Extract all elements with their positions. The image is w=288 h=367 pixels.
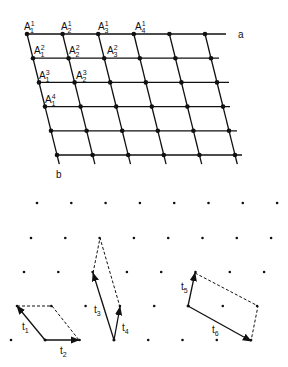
cell-dashed-edge xyxy=(17,306,79,340)
lattice-point xyxy=(139,202,142,205)
grid-point xyxy=(215,80,220,85)
axis-a-label: a xyxy=(238,29,244,40)
vector-label: t4 xyxy=(122,322,129,335)
lattice-point xyxy=(167,237,170,240)
cell-dashed-edge xyxy=(93,238,120,307)
lattice-point xyxy=(10,339,13,342)
grid-point xyxy=(31,56,36,61)
point-label: A32 xyxy=(76,69,87,83)
lattice-point xyxy=(30,237,33,240)
lattice-point xyxy=(222,305,225,308)
grid-point xyxy=(221,104,226,109)
lattice-point xyxy=(84,305,87,308)
lattice-point xyxy=(201,237,204,240)
unit-cell: t3t4 xyxy=(93,238,129,341)
lattice-point xyxy=(216,339,219,342)
unit-cells: t1t2t3t4t5t6 xyxy=(17,238,258,358)
vector-label: t2 xyxy=(60,345,67,358)
lattice-point xyxy=(263,271,266,274)
point-label: A21 xyxy=(34,44,45,58)
cell-dashed-edge xyxy=(195,273,258,341)
lattice-point xyxy=(153,305,156,308)
point-label: A11 xyxy=(24,20,35,34)
grid-point xyxy=(138,56,143,61)
grid-point xyxy=(102,56,107,61)
lattice-point xyxy=(181,339,184,342)
vector-origin xyxy=(44,339,47,342)
grid-point xyxy=(227,129,232,134)
lattice-point xyxy=(70,202,73,205)
lattice-point xyxy=(173,202,176,205)
grid-point xyxy=(132,32,137,37)
grid-point xyxy=(120,129,125,134)
grid-point xyxy=(66,56,71,61)
grid-point xyxy=(150,104,155,109)
point-label: A13 xyxy=(98,20,109,34)
vector-label: t5 xyxy=(181,281,188,294)
oblique-grid xyxy=(25,32,242,164)
grid-point xyxy=(156,129,161,134)
column-line xyxy=(205,34,237,164)
lattice-point xyxy=(276,202,279,205)
vector-label: t3 xyxy=(94,304,101,317)
vector-label: t6 xyxy=(212,324,219,337)
axis-b-label: b xyxy=(56,169,62,180)
grid-point xyxy=(84,129,89,134)
lattice-point xyxy=(147,339,150,342)
lattice-point xyxy=(242,202,245,205)
lattice-point xyxy=(104,202,107,205)
lattice-point xyxy=(229,271,232,274)
grid-point xyxy=(173,56,178,61)
grid-point xyxy=(191,129,196,134)
grid-point xyxy=(203,32,208,37)
grid-point xyxy=(108,80,113,85)
lattice-point xyxy=(64,237,67,240)
translation-vector xyxy=(188,306,251,341)
grid-point xyxy=(197,153,202,158)
lattice-point xyxy=(160,271,163,274)
grid-point xyxy=(185,104,190,109)
grid-point xyxy=(179,80,184,85)
grid-point xyxy=(90,153,95,158)
point-label: A41 xyxy=(45,93,56,107)
vector-origin xyxy=(113,339,116,342)
point-label: A31 xyxy=(39,69,50,83)
lattice-point xyxy=(133,237,136,240)
lattice-point xyxy=(23,271,26,274)
grid-point xyxy=(209,56,214,61)
lattice-point xyxy=(236,237,239,240)
grid-point xyxy=(162,153,167,158)
vector-label: t1 xyxy=(22,321,29,334)
unit-cell: t5t6 xyxy=(181,273,258,341)
point-label: A12 xyxy=(61,20,72,34)
point-label: A14 xyxy=(135,20,146,34)
grid-point xyxy=(144,80,149,85)
grid-point xyxy=(55,153,60,158)
lattice-point xyxy=(207,202,210,205)
lattice-point xyxy=(126,271,129,274)
column-line xyxy=(134,34,166,164)
grid-point xyxy=(96,32,101,37)
lattice-point xyxy=(57,271,60,274)
translation-vector xyxy=(114,307,120,340)
vector-origin xyxy=(187,305,190,308)
grid-point xyxy=(78,104,83,109)
translation-vector xyxy=(188,273,195,306)
point-lattice xyxy=(10,202,279,342)
lattice-point xyxy=(36,202,39,205)
grid-point xyxy=(60,32,65,37)
grid-point xyxy=(25,32,30,37)
point-label: A23 xyxy=(107,44,118,58)
grid-point xyxy=(49,129,54,134)
grid-point xyxy=(126,153,131,158)
grid-point xyxy=(167,32,172,37)
unit-cell: t1t2 xyxy=(17,306,79,358)
grid-point xyxy=(114,104,119,109)
column-line xyxy=(169,34,201,164)
lattice-point xyxy=(270,237,273,240)
point-label: A22 xyxy=(69,44,80,58)
grid-point xyxy=(233,153,238,158)
lattice-diagram: A11A12A13A14A21A22A23A31A32A41 a b t1t2t… xyxy=(0,0,288,367)
